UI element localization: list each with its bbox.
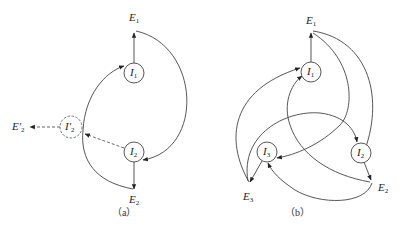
panel-a: E1 I1 I2 E2 I'2 E'2 （a） bbox=[11, 11, 187, 218]
diagram-canvas: E1 I1 I2 E2 I'2 E'2 （a） E1 I1 I3 I2 E3 bbox=[0, 0, 398, 237]
edge-b-e2-i3 bbox=[268, 163, 372, 200]
edge-a-i2-i2prime bbox=[85, 134, 124, 148]
label-b-e3: E3 bbox=[242, 190, 254, 204]
edge-b-e1-i3 bbox=[277, 33, 349, 158]
edge-a-e2-i1 bbox=[83, 66, 133, 189]
label-a-e1: E1 bbox=[128, 11, 140, 25]
edge-b-i3-e3 bbox=[250, 161, 262, 182]
caption-b: （b） bbox=[285, 207, 310, 218]
label-b-e1: E1 bbox=[305, 14, 317, 28]
edge-b-i2-e2 bbox=[364, 162, 371, 180]
label-a-e2: E2 bbox=[128, 193, 140, 207]
label-b-e2: E2 bbox=[377, 181, 389, 195]
edge-a-e1-i2 bbox=[136, 31, 187, 160]
diagram-svg: E1 I1 I2 E2 I'2 E'2 （a） E1 I1 I3 I2 E3 bbox=[0, 0, 398, 237]
label-a-e2prime: E'2 bbox=[11, 120, 25, 134]
edge-b-e2-i1 bbox=[287, 76, 370, 182]
edge-b-e1-i2 bbox=[313, 31, 373, 155]
panel-b: E1 I1 I3 I2 E3 E2 （b） bbox=[236, 14, 389, 218]
caption-a: （a） bbox=[112, 207, 136, 218]
